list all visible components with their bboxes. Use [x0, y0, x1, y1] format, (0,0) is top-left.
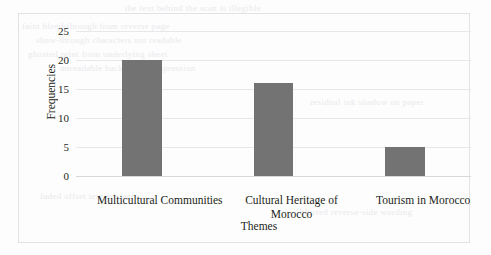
x-axis-title: Themes: [94, 220, 424, 232]
y-axis-title: Frequencies: [45, 64, 59, 120]
x-tick-label: Multicultural Communities: [94, 193, 226, 221]
bar-multicultural-communities[interactable]: [122, 60, 162, 176]
bar-cultural-heritage-morocco[interactable]: [254, 83, 294, 176]
y-tick-label: 0: [64, 170, 70, 182]
x-tick-label: Tourism in Morocco: [357, 193, 489, 221]
bar-tourism-in-morocco[interactable]: [385, 147, 425, 176]
chart-border: Frequencies 25 20 15 10 5 0: [18, 13, 470, 243]
y-tick-label: 25: [58, 25, 69, 37]
axis-baseline: 0: [76, 176, 471, 177]
x-axis-tick-labels: Multicultural Communities Cultural Herit…: [94, 193, 489, 221]
y-tick-label: 15: [58, 83, 69, 95]
gridline-25: 25: [76, 31, 471, 32]
y-tick-label: 5: [64, 141, 70, 153]
plot-area: 25 20 15 10 5 0: [76, 31, 471, 176]
figure-page: the text behind the scan is illegible fa…: [0, 0, 491, 255]
x-tick-label: Cultural Heritage of Morocco: [226, 193, 358, 221]
y-tick-label: 10: [58, 112, 69, 124]
y-tick-label: 20: [58, 54, 69, 66]
